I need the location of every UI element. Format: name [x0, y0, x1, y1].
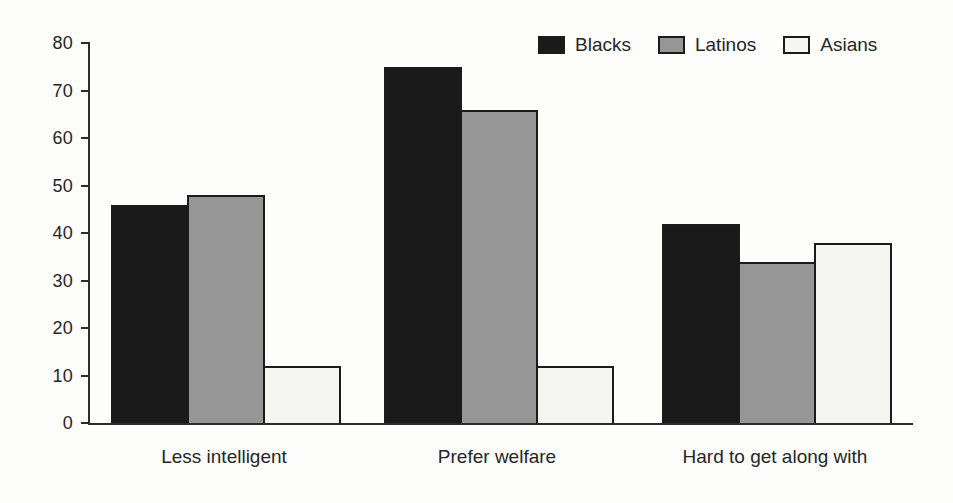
y-axis-tick [81, 422, 90, 424]
bar-latinos-1 [187, 195, 265, 423]
y-axis-tick-label: 60 [52, 129, 73, 147]
y-axis-tick-label: 40 [52, 224, 73, 242]
bar-group-1 [111, 195, 341, 423]
y-axis-tick-label: 50 [52, 177, 73, 195]
y-axis-tick [81, 137, 90, 139]
y-axis-tick [81, 280, 90, 282]
y-axis-tick-label: 80 [52, 34, 73, 52]
bar-asians-2 [536, 366, 614, 423]
bar-blacks-3 [662, 224, 740, 424]
bar-asians-3 [814, 243, 892, 424]
y-axis-tick-label: 20 [52, 319, 73, 337]
bar-group-3 [662, 224, 892, 424]
y-axis-tick-label: 30 [52, 272, 73, 290]
category-label-3: Hard to get along with [683, 446, 868, 468]
bar-group-2 [384, 67, 614, 423]
grouped-bar-chart: BlacksLatinosAsians 01020304050607080 Le… [0, 0, 953, 503]
bar-blacks-1 [111, 205, 189, 424]
bar-latinos-2 [460, 110, 538, 424]
bar-asians-1 [263, 366, 341, 423]
bar-blacks-2 [384, 67, 462, 423]
y-axis-tick [81, 232, 90, 234]
bar-latinos-3 [738, 262, 816, 424]
category-label-2: Prefer welfare [438, 446, 556, 468]
y-axis-tick-label: 70 [52, 82, 73, 100]
y-axis-tick [81, 42, 90, 44]
y-axis-tick [81, 90, 90, 92]
y-axis-tick-label: 10 [52, 367, 73, 385]
y-axis-tick [81, 185, 90, 187]
category-label-1: Less intelligent [161, 446, 287, 468]
y-axis-tick [81, 375, 90, 377]
plot-area: 01020304050607080 [88, 43, 913, 425]
y-axis-tick-label: 0 [63, 414, 73, 432]
y-axis-tick [81, 327, 90, 329]
